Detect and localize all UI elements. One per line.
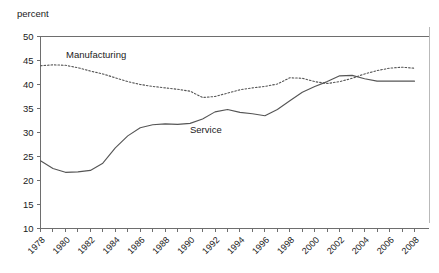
- x-tick-label: 2006: [375, 235, 396, 256]
- x-tick-label: 2008: [400, 235, 421, 256]
- x-tick-label: 1992: [200, 235, 221, 256]
- series-annotation-service: Service: [190, 124, 222, 135]
- x-tick-label: 1988: [150, 235, 171, 256]
- y-tick-label: 20: [23, 175, 34, 186]
- series-lines: [41, 65, 415, 173]
- y-tick-label: 35: [23, 103, 34, 114]
- x-axis: 1978198019821984198619881990199219941996…: [26, 229, 429, 257]
- y-tick-label: 25: [23, 151, 34, 162]
- x-tick-label: 2002: [325, 235, 346, 256]
- x-tick-label: 2000: [300, 235, 321, 256]
- y-tick-label: 15: [23, 199, 34, 210]
- x-tick-label: 1980: [51, 235, 72, 256]
- chart-container: 101520253035404550 197819801982198419861…: [0, 0, 439, 273]
- y-tick-label: 45: [23, 55, 34, 66]
- line-chart: 101520253035404550 197819801982198419861…: [0, 0, 439, 273]
- x-tick-label: 1984: [100, 235, 121, 256]
- x-tick-label: 1982: [76, 235, 97, 256]
- y-axis: 101520253035404550: [23, 31, 429, 234]
- x-tick-label: 1996: [250, 235, 271, 256]
- x-tick-label: 2004: [350, 235, 371, 256]
- series-annotation-manufacturing: Manufacturing: [66, 49, 126, 60]
- y-tick-label: 30: [23, 127, 34, 138]
- x-tick-label: 1994: [225, 235, 246, 256]
- series-annotations: ManufacturingService: [66, 49, 222, 135]
- y-tick-label: 10: [23, 223, 34, 234]
- series-line-manufacturing: [41, 65, 415, 98]
- y-tick-label: 50: [23, 31, 34, 42]
- x-tick-label: 1978: [26, 235, 47, 256]
- x-tick-label: 1986: [125, 235, 146, 256]
- y-axis-title: percent: [17, 8, 49, 19]
- y-tick-label: 40: [23, 79, 34, 90]
- x-tick-label: 1990: [175, 235, 196, 256]
- series-line-service: [41, 75, 415, 172]
- x-tick-label: 1998: [275, 235, 296, 256]
